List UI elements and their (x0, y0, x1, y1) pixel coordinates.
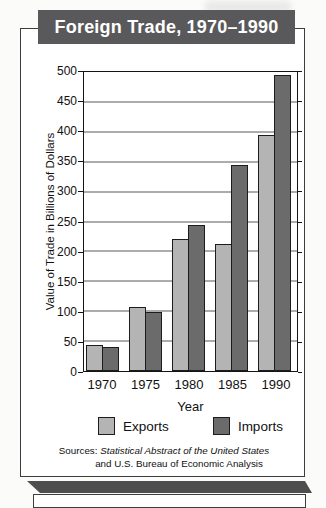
x-tick-label-1975: 1975 (129, 377, 163, 392)
bar-exports-1980 (172, 239, 189, 371)
y-tick-label-250: 250 (43, 215, 77, 229)
legend-label-exports: Exports (123, 419, 169, 434)
right-tick-400 (298, 131, 302, 132)
sources-line2: and U.S. Bureau of Economic Analysis (39, 457, 319, 470)
x-axis-title: Year (83, 399, 298, 414)
legend-item-exports: Exports (98, 417, 169, 435)
bar-group-1975 (129, 72, 163, 371)
x-tick-label-1970: 1970 (85, 377, 119, 392)
plot-area (83, 71, 298, 372)
y-tick-label-450: 450 (43, 94, 77, 108)
sources-note: Sources: Statistical Abstract of the Uni… (24, 444, 304, 470)
bar-imports-1985 (231, 165, 248, 371)
bar-exports-1990 (258, 135, 275, 371)
bar-group-1990 (258, 72, 292, 371)
sources-prefix: Sources: (59, 445, 100, 456)
y-tick-label-400: 400 (43, 124, 77, 138)
bar-exports-1985 (215, 244, 232, 371)
bar-group-1985 (215, 72, 249, 371)
y-tick-label-500: 500 (43, 64, 77, 78)
right-tick-450 (298, 101, 302, 102)
bar-group-1970 (86, 72, 120, 371)
right-tick-150 (298, 282, 302, 283)
right-tick-50 (298, 342, 302, 343)
bar-imports-1980 (188, 225, 205, 372)
y-tick-label-200: 200 (43, 245, 77, 259)
right-tick-200 (298, 252, 302, 253)
bar-groups (84, 72, 297, 371)
legend: ExportsImports (83, 417, 298, 435)
bar-imports-1975 (145, 312, 162, 371)
bar-imports-1970 (102, 347, 119, 371)
x-tick-label-1985: 1985 (216, 377, 250, 392)
y-tick-label-50: 50 (43, 335, 77, 349)
legend-swatch-exports (98, 417, 115, 435)
legend-item-imports: Imports (213, 417, 283, 435)
next-figure-box-edge (33, 494, 306, 508)
right-tick-350 (298, 161, 302, 162)
bar-imports-1990 (274, 75, 291, 371)
bar-exports-1970 (86, 345, 103, 371)
right-tick-100 (298, 312, 302, 313)
figure-title-banner: Foreign Trade, 1970–1990 (38, 10, 295, 44)
page-shadow-band (20, 481, 312, 493)
y-tick-label-300: 300 (43, 184, 77, 198)
sources-publication-title: Statistical Abstract of the United State… (100, 445, 269, 456)
legend-swatch-imports (213, 417, 230, 435)
x-axis-tick-labels: 19701975198019851990 (83, 377, 298, 392)
x-tick-label-1980: 1980 (172, 377, 206, 392)
right-tick-0 (298, 372, 302, 373)
bar-group-1980 (172, 72, 206, 371)
y-tick-label-0: 0 (43, 365, 77, 379)
right-tick-250 (298, 222, 302, 223)
y-tick-label-100: 100 (43, 305, 77, 319)
left-tick-0 (78, 372, 83, 373)
y-tick-label-150: 150 (43, 275, 77, 289)
figure-title: Foreign Trade, 1970–1990 (55, 17, 279, 38)
bar-exports-1975 (129, 307, 146, 371)
x-tick-label-1990: 1990 (259, 377, 293, 392)
right-tick-500 (298, 71, 302, 72)
right-tick-300 (298, 191, 302, 192)
y-tick-label-350: 350 (43, 154, 77, 168)
legend-label-imports: Imports (238, 419, 283, 434)
